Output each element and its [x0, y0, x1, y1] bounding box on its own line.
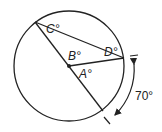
label-d: D° [104, 45, 118, 59]
diagram-canvas: C° B° D° A° 70° [0, 0, 162, 132]
label-c: C° [46, 22, 60, 36]
label-b: B° [68, 49, 81, 63]
arc-tick-top [130, 55, 138, 56]
label-a: A° [78, 67, 92, 81]
center-point [67, 64, 71, 68]
arc-tick-bottom [104, 117, 110, 124]
circle-diagram: C° B° D° A° 70° [0, 0, 162, 132]
label-arc: 70° [135, 89, 153, 103]
arc-arrow [115, 64, 134, 115]
